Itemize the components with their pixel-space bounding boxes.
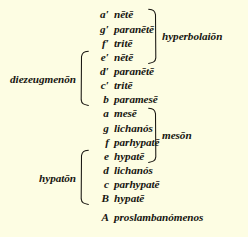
group-bracket-hypaton	[80, 149, 89, 206]
note-degree: a	[96, 107, 109, 119]
note-name: tritē	[114, 37, 132, 49]
note-name: hypatē	[114, 192, 144, 204]
note-degree: f′	[96, 37, 109, 49]
note-row: dlichanós	[96, 164, 153, 178]
note-degree: e′	[96, 51, 109, 63]
note-name: parhypatē	[114, 178, 160, 190]
note-degree: d	[96, 164, 109, 176]
group-label-diezeugmenon: diezeugmenōn	[10, 73, 76, 85]
note-degree: A	[96, 211, 109, 223]
note-row: d′paranētē	[96, 65, 154, 79]
note-degree: a′	[96, 8, 109, 20]
note-row: g′paranētē	[96, 23, 154, 37]
note-name: nētē	[114, 51, 133, 63]
group-bracket-hyperbolaion	[148, 8, 157, 65]
note-degree: B	[96, 192, 109, 204]
group-label-hypaton: hypatōn	[39, 172, 76, 184]
note-row: f′tritē	[96, 37, 132, 51]
note-name: tritē	[114, 79, 132, 91]
note-degree: g	[96, 122, 109, 134]
note-name: proslambanómenos	[114, 211, 203, 223]
note-row: cparhypatē	[96, 178, 160, 192]
note-degree: d′	[96, 65, 109, 77]
note-row: ehypatē	[96, 150, 144, 164]
group-bracket-diezeugmenon	[80, 50, 89, 107]
note-name: mesē	[114, 107, 137, 119]
note-name: paranētē	[114, 65, 154, 77]
note-row-proslambanomenos: Aproslambanómenos	[96, 211, 203, 223]
note-row: Bhypatē	[96, 192, 144, 206]
note-degree: b	[96, 93, 109, 105]
note-name: lichanós	[114, 122, 153, 134]
note-name: lichanós	[114, 164, 153, 176]
note-name: hypatē	[114, 150, 144, 162]
note-name: nētē	[114, 8, 133, 20]
group-label-hyperbolaion: hyperbolaiōn	[162, 30, 222, 42]
note-degree: g′	[96, 23, 109, 35]
note-row: bparamesē	[96, 93, 158, 107]
note-degree: f	[96, 136, 109, 148]
note-degree: c′	[96, 79, 109, 91]
note-name: paramesē	[114, 93, 158, 105]
note-row: a′nētē	[96, 8, 133, 22]
note-degree: e	[96, 150, 109, 162]
note-row: amesē	[96, 107, 137, 121]
group-label-meson: mesōn	[162, 129, 192, 141]
note-degree: c	[96, 178, 109, 190]
scale-diagram: a′nētēg′paranētēf′tritēe′nētēd′paranētēc…	[0, 0, 248, 237]
note-row: glichanós	[96, 122, 153, 136]
note-row: e′nētē	[96, 51, 133, 65]
group-bracket-meson	[148, 107, 157, 164]
note-row: c′tritē	[96, 79, 132, 93]
